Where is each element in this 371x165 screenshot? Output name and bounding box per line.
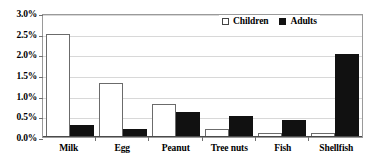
bar-group	[96, 15, 149, 137]
x-axis-tick-mark	[148, 137, 149, 141]
bar-group	[309, 15, 362, 137]
bar-groups	[43, 15, 362, 137]
y-axis-tick-mark	[39, 139, 43, 140]
allergy-prevalence-bar-chart: 0.0%0.5%1.0%1.5%2.0%2.5%3.0% MilkEggPean…	[0, 0, 371, 165]
bar-group	[149, 15, 202, 137]
y-axis-tick-label: 2.0%	[16, 50, 37, 60]
bar-adults	[282, 120, 306, 137]
x-axis-label: Milk	[42, 143, 96, 153]
x-axis-tick-mark	[202, 137, 203, 141]
plot-area	[42, 14, 363, 138]
y-axis-tick-label: 3.0%	[16, 9, 37, 19]
bar-group	[256, 15, 309, 137]
bar-children	[152, 104, 176, 137]
x-axis-line	[43, 136, 362, 137]
legend-label-children: Children	[233, 16, 268, 26]
x-axis-tick-mark	[255, 137, 256, 141]
x-axis-category-labels: MilkEggPeanutTree nutsFishShellfish	[42, 143, 363, 153]
x-axis-tick-mark	[95, 137, 96, 141]
open-square-icon	[222, 18, 229, 25]
x-axis-label: Peanut	[149, 143, 203, 153]
bar-group	[203, 15, 256, 137]
bar-adults	[176, 112, 200, 137]
y-axis-tick-label: 1.5%	[16, 71, 37, 81]
y-axis-tick-label: 0.5%	[16, 112, 37, 122]
x-axis-label: Shellfish	[310, 143, 364, 153]
x-axis-tick-mark	[308, 137, 309, 141]
bar-group	[43, 15, 96, 137]
bar-children	[46, 34, 70, 137]
y-axis-tick-labels: 0.0%0.5%1.0%1.5%2.0%2.5%3.0%	[0, 0, 40, 165]
legend-item-adults: Adults	[279, 16, 316, 26]
legend-label-adults: Adults	[290, 16, 316, 26]
y-axis-tick-label: 0.0%	[16, 133, 37, 143]
chart-legend: Children Adults	[219, 15, 320, 27]
bar-adults	[229, 116, 253, 137]
x-axis-label: Tree nuts	[203, 143, 257, 153]
y-axis-tick-label: 2.5%	[16, 30, 37, 40]
x-axis-label: Egg	[96, 143, 150, 153]
x-axis-label: Fish	[256, 143, 310, 153]
bar-children	[99, 83, 123, 137]
bar-adults	[335, 54, 359, 137]
filled-square-icon	[279, 18, 286, 25]
y-axis-tick-label: 1.0%	[16, 92, 37, 102]
legend-item-children: Children	[222, 16, 268, 26]
